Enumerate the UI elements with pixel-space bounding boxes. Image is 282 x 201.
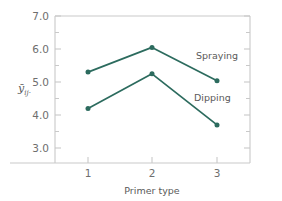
- y-tick-label-6: 6.0: [32, 43, 49, 55]
- series-label-spraying: Spraying: [196, 50, 238, 61]
- figure-background: [0, 0, 282, 201]
- y-tick-label-3: 3.0: [32, 142, 49, 154]
- series-dipping-point-3: [215, 122, 220, 127]
- y-tick-label-4: 4.0: [32, 109, 49, 121]
- series-spraying-point-2: [150, 45, 155, 50]
- series-spraying-point-3: [215, 78, 220, 83]
- x-axis-title: Primer type: [124, 185, 180, 196]
- y-axis-title-subscript: ij·: [24, 89, 31, 97]
- y-tick-label-7: 7.0: [32, 10, 49, 22]
- x-tick-label-3: 3: [214, 167, 221, 179]
- y-tick-label-5: 5.0: [32, 76, 49, 88]
- interaction-plot-figure: 7.0 6.0 5.0 4.0 3.0 ȳij· 1 2 3 Primer t…: [0, 0, 282, 201]
- x-tick-label-1: 1: [85, 167, 92, 179]
- series-spraying-point-1: [86, 70, 91, 75]
- series-dipping-point-2: [150, 71, 155, 76]
- series-dipping-point-1: [86, 106, 91, 111]
- series-label-dipping: Dipping: [194, 92, 231, 103]
- x-tick-label-2: 2: [149, 167, 156, 179]
